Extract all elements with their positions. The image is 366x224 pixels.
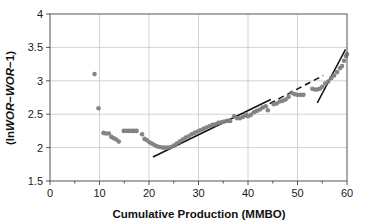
chart-container: 0102030405060 1.522.533.54 Cumulative Pr…	[0, 0, 366, 224]
y-axis-title-open: (ln	[4, 131, 16, 145]
x-tick-label: 30	[192, 187, 204, 199]
data-point	[264, 104, 269, 109]
y-tick-label: 1.5	[28, 175, 43, 187]
x-tick-label: 50	[291, 187, 303, 199]
data-point	[140, 132, 145, 137]
y-axis-title-tail: −1)	[4, 51, 16, 68]
x-tick-label: 10	[93, 187, 105, 199]
svg-text:(lnWOR−WOR−1): (lnWOR−WOR−1)	[4, 51, 16, 145]
y-axis-title-wor-second: WOR	[4, 67, 16, 96]
data-point	[301, 93, 306, 98]
x-axis-ticks-group: 0102030405060	[47, 181, 353, 199]
y-tick-label: 3.5	[28, 41, 43, 53]
data-point	[92, 72, 97, 77]
data-point	[134, 129, 139, 134]
x-tick-label: 20	[143, 187, 155, 199]
data-point	[286, 95, 291, 100]
data-point	[266, 108, 271, 113]
x-tick-label: 60	[341, 187, 353, 199]
y-axis-ticks-group: 1.522.533.54	[28, 8, 50, 187]
data-point	[340, 64, 345, 69]
data-point	[342, 58, 347, 63]
y-tick-label: 4	[37, 8, 43, 20]
y-axis-title-wor-first: WOR	[4, 102, 16, 131]
data-point	[228, 119, 233, 124]
data-points-group	[92, 52, 349, 150]
y-tick-label: 2.5	[28, 108, 43, 120]
x-tick-label: 0	[47, 187, 53, 199]
data-point	[96, 106, 101, 111]
y-tick-label: 2	[37, 142, 43, 154]
data-point	[117, 139, 122, 144]
x-tick-label: 40	[242, 187, 254, 199]
x-axis-title: Cumulative Production (MMBO)	[112, 208, 285, 220]
y-axis-title: (lnWOR−WOR−1)	[4, 51, 16, 145]
data-point	[335, 70, 340, 75]
scatter-plot: 0102030405060 1.522.533.54 Cumulative Pr…	[0, 0, 366, 224]
y-tick-label: 3	[37, 75, 43, 87]
gridlines-group	[50, 14, 347, 181]
